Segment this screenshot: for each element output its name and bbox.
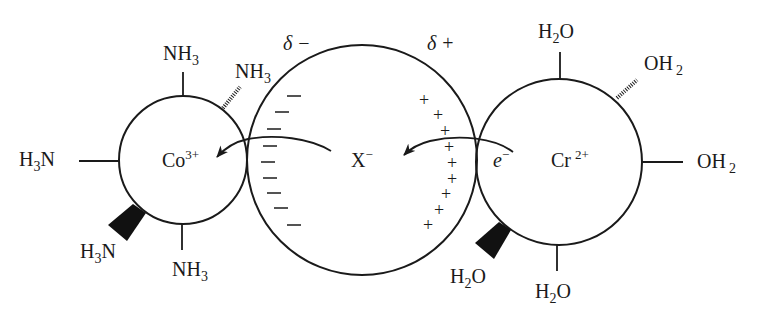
co-ligand-bottom-nh3: NH3 [172,258,208,284]
co-ligand-front-left-h3n: H3N [80,240,116,266]
cr-ligand-top-h2o: H2O [538,20,574,46]
co-hashed-bond-back-right [223,87,240,108]
chromium-ion-label: Cr2+ [551,147,589,171]
co-ligand-left-h3n: H3N [19,148,55,174]
co-wedge-bond-front-left [108,204,146,241]
bridge-ion-label: X− [351,147,373,171]
partial-positive-label: δ+ [427,32,454,54]
co-ligand-back-right-nh3: NH3 [235,60,271,86]
electron-label: e− [493,147,509,171]
cr-ligand-front-left-h2o: H2O [450,265,486,291]
bridging-ligand: δ− δ+ X− +++++++++ [247,32,477,275]
plus-sign: + [419,90,429,110]
cr-ligand-back-right-oh2: OH2 [644,52,683,78]
cr-ligand-bottom-h2o: H2O [535,280,571,306]
arrow-bridge-to-cobalt [217,137,331,157]
negative-charge-marks [261,96,301,225]
cobalt-ion-label: Co3+ [162,147,199,171]
chromium-complex: Cr2+ e− H2O OH2 OH2 H2O H2O [450,20,736,306]
cr-hashed-bond-back-right [617,80,637,98]
partial-negative-label: δ− [283,32,310,54]
plus-sign: + [423,215,433,235]
positive-charge-marks: +++++++++ [419,90,457,235]
plus-sign: + [434,200,444,220]
cr-wedge-bond-front-left [475,222,511,259]
co-ligand-top-nh3: NH3 [163,42,199,68]
electron-transfer-diagram: Co3+ NH3 NH3 H3N H3N NH3 δ− δ+ X− [0,0,759,315]
cobalt-complex: Co3+ NH3 NH3 H3N H3N NH3 [19,42,271,284]
cr-ligand-right-oh2: OH2 [697,150,736,176]
